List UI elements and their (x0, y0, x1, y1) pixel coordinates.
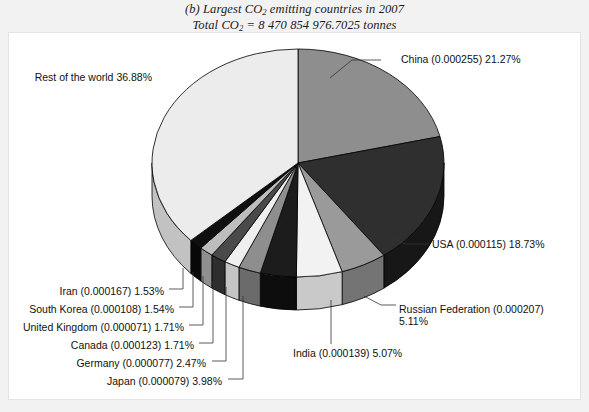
pie-side-japan (260, 273, 296, 310)
leader-line-russia (364, 296, 396, 305)
leader-line-germany (212, 287, 226, 361)
pie-label-india: India (0.000139) 5.07% (293, 347, 402, 359)
pie-side-india (296, 272, 342, 310)
pie-label-japan: Japan (0.000079) 3.98% (0, 375, 222, 387)
pie-label-russia: Russian Federation (0.000207) (399, 303, 544, 315)
pie-label-russia-2: 5.11% (399, 315, 428, 327)
leader-line-uk (189, 276, 203, 325)
pie-label-rest: Rest of the world 36.88% (0, 71, 152, 83)
pie-label-china: China (0.000255) 21.27% (401, 53, 521, 65)
leader-line-japan (228, 296, 243, 379)
pie-label-south-korea: South Korea (0.000108) 1.54% (0, 303, 174, 315)
pie-top-faces (152, 49, 444, 277)
pie-side-germany (239, 267, 260, 306)
leader-line-iran (169, 268, 183, 289)
pie-label-usa: USA (0.000115) 18.73% (432, 238, 544, 250)
leader-line-canada (199, 281, 213, 343)
pie-side-canada (225, 262, 239, 301)
pie-label-canada: Canada (0.000123) 1.71% (0, 339, 194, 351)
pie-label-uk: United Kingdom (0.000071) 1.71% (0, 321, 184, 333)
co2-pie-figure: (b) Largest CO2 emitting countries in 20… (0, 0, 589, 412)
pie-label-germany: Germany (0.000077) 2.47% (0, 357, 206, 369)
pie-label-iran: Iran (0.000167) 1.53% (0, 285, 164, 297)
leader-line-south-korea (179, 272, 193, 307)
